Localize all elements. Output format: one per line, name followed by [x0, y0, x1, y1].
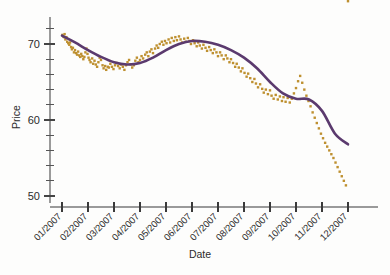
- data-point: [131, 66, 133, 68]
- data-point: [204, 47, 206, 49]
- data-point: [122, 66, 124, 68]
- data-point: [165, 42, 167, 44]
- data-point: [212, 52, 214, 54]
- y-tick-label: 60: [28, 114, 40, 126]
- data-point: [202, 44, 204, 46]
- data-point: [101, 64, 103, 66]
- y-tick-label: 70: [28, 38, 40, 50]
- data-point: [147, 55, 149, 57]
- data-point: [311, 111, 313, 113]
- x-tick-label: 06/2007: [161, 211, 193, 243]
- x-axis-tick-labels: 01/200702/200703/200704/200705/200706/20…: [31, 211, 349, 243]
- data-point: [345, 184, 347, 186]
- data-point: [95, 63, 97, 65]
- data-point: [247, 72, 249, 74]
- data-point: [336, 166, 338, 168]
- data-point: [109, 63, 111, 65]
- data-point: [201, 47, 203, 49]
- data-point: [240, 70, 242, 72]
- x-axis-title: Date: [189, 248, 211, 260]
- data-point: [105, 69, 107, 71]
- data-point: [255, 82, 257, 84]
- x-tick-label: 10/2007: [265, 211, 297, 243]
- data-point: [213, 48, 215, 50]
- data-point: [261, 88, 263, 90]
- data-point: [199, 44, 201, 46]
- data-point: [84, 51, 86, 53]
- x-tick-label: 09/2007: [239, 211, 271, 243]
- data-point: [79, 56, 81, 58]
- data-point: [226, 57, 228, 59]
- data-point: [193, 42, 195, 44]
- data-point: [257, 86, 259, 88]
- data-point: [228, 61, 230, 63]
- data-point: [297, 80, 299, 82]
- x-tick-label: 02/2007: [57, 211, 89, 243]
- data-point: [96, 66, 98, 68]
- data-point: [251, 81, 253, 83]
- data-point: [223, 58, 225, 60]
- y-axis: 506070 Price: [10, 17, 55, 203]
- x-tick-label: 01/2007: [31, 211, 63, 243]
- data-point: [88, 59, 90, 61]
- data-point: [219, 51, 221, 53]
- data-point: [220, 54, 222, 56]
- y-axis-tick-labels: 506070: [28, 38, 40, 202]
- data-point: [234, 66, 236, 68]
- data-point: [72, 47, 74, 49]
- x-tick-label: 05/2007: [135, 211, 167, 243]
- data-point: [238, 66, 240, 68]
- data-point: [277, 98, 279, 100]
- data-point: [270, 94, 272, 96]
- data-point: [161, 41, 163, 43]
- data-point: [155, 44, 157, 46]
- data-point: [126, 61, 128, 63]
- data-point: [289, 101, 291, 103]
- data-point: [225, 54, 227, 56]
- data-point: [74, 49, 76, 51]
- data-point: [341, 175, 343, 177]
- data-point: [102, 67, 104, 69]
- data-point: [281, 100, 283, 102]
- data-point: [128, 59, 130, 61]
- data-point: [215, 51, 217, 53]
- data-point: [272, 98, 274, 100]
- scatter-chart: 506070 Price 01/200702/200703/200704/200…: [0, 0, 390, 275]
- data-point: [210, 49, 212, 51]
- data-point: [324, 142, 326, 144]
- data-point: [150, 48, 152, 50]
- data-point: [82, 58, 84, 60]
- data-point: [332, 157, 334, 159]
- data-point: [303, 88, 305, 90]
- data-point: [100, 59, 102, 61]
- data-point: [343, 180, 345, 182]
- chart-canvas: 506070 Price 01/200702/200703/200704/200…: [0, 0, 390, 275]
- x-tick-label: 08/2007: [213, 211, 245, 243]
- data-point: [179, 38, 181, 40]
- data-point: [301, 82, 303, 84]
- x-axis: 01/200702/200703/200704/200705/200706/20…: [31, 202, 378, 260]
- data-point: [334, 161, 336, 163]
- data-point: [263, 91, 265, 93]
- data-point: [73, 51, 75, 53]
- data-point: [265, 88, 267, 90]
- data-point: [187, 37, 189, 39]
- data-point: [111, 66, 113, 68]
- data-point: [309, 105, 311, 107]
- data-point: [169, 41, 171, 43]
- data-point: [80, 53, 82, 55]
- data-point: [295, 87, 297, 89]
- data-point: [173, 40, 175, 42]
- data-point: [114, 64, 116, 66]
- data-point: [253, 78, 255, 80]
- data-point: [63, 33, 65, 35]
- data-point: [68, 44, 70, 46]
- data-point: [171, 37, 173, 39]
- data-point: [97, 61, 99, 63]
- data-point: [314, 117, 316, 119]
- data-point: [164, 40, 166, 42]
- data-point: [123, 69, 125, 71]
- data-point: [87, 56, 89, 58]
- data-point: [92, 63, 94, 65]
- data-point: [183, 37, 185, 39]
